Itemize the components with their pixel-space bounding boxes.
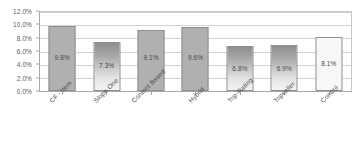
bar-value-label: 6.8% [232,65,247,72]
y-tick-mark [36,51,39,52]
bar-value-label: 9.6% [188,54,203,61]
bar-value-label: 9.8% [55,54,70,61]
y-tick-mark [36,24,39,25]
y-tick-mark [36,37,39,38]
y-tick-label: 0.0% [17,88,32,95]
bar-slot: 9.6% [173,11,217,91]
bar-value-label: 6.9% [277,65,292,72]
bar-slot: 7.3% [84,11,128,91]
bar-value-label: 9.1% [143,54,158,61]
bar-chart: 12.0% 10.0% 8.0% 6.0% 4.0% 2.0% 0.0% 9.8… [0,0,358,151]
bar-slot: 6.8% [218,11,262,91]
bar-value-label: 7.3% [99,62,114,69]
y-tick-label: 12.0% [13,8,32,15]
y-tick-label: 8.0% [17,34,32,41]
y-tick-mark [36,91,39,92]
y-tick-label: 10.0% [13,21,32,28]
y-tick-mark [36,64,39,65]
bars-container: 9.8% 7.3% 9.1% 9.6% 6.8% 6.9% 8.1% [40,11,351,91]
x-tick-mark [151,92,152,95]
bar-value-label: 8.1% [321,60,336,67]
x-axis-labels: CF - Item Slope One Content Based Hybrid… [40,96,351,151]
y-tick-mark [36,77,39,78]
bar-slot: 6.9% [262,11,306,91]
y-tick-label: 2.0% [17,74,32,81]
y-tick-label: 6.0% [17,48,32,55]
y-axis-labels: 12.0% 10.0% 8.0% 6.0% 4.0% 2.0% 0.0% [0,11,36,92]
y-tick-label: 4.0% [17,61,32,68]
bar-slot: 9.8% [40,11,84,91]
y-tick-mark [36,11,39,12]
bar-slot: 8.1% [307,11,351,91]
